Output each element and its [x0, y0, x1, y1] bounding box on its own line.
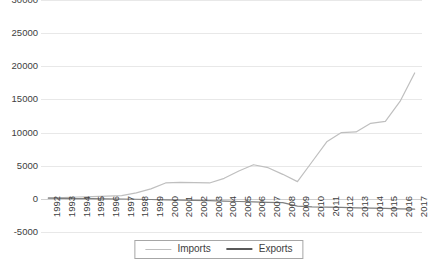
x-axis-tick-label: 2007 — [272, 196, 282, 217]
x-axis-tick-label: 1994 — [82, 196, 92, 217]
legend-line-swatch — [145, 249, 171, 250]
x-axis-tick-label: 2010 — [316, 196, 326, 217]
y-axis-tick-label: 20000 — [0, 62, 38, 72]
line-chart: 300002500020000150001000050000-5000 1992… — [0, 0, 438, 265]
x-axis-tick-labels: 1992199319941995199619971998199920002001… — [41, 196, 422, 236]
x-axis-tick-label: 2008 — [287, 196, 297, 217]
y-axis-tick-label: 15000 — [0, 95, 38, 105]
x-axis-tick-label: 2001 — [184, 196, 194, 217]
x-axis-tick-label: 2006 — [257, 196, 267, 217]
x-axis-tick-label: 2015 — [389, 196, 399, 217]
legend-label: Imports — [177, 243, 210, 255]
x-axis-tick-label: 2014 — [375, 196, 385, 217]
x-axis-tick-label: 2004 — [228, 196, 238, 217]
x-axis-tick-label: 1999 — [155, 196, 165, 217]
y-axis-tick-label: 0 — [0, 194, 38, 204]
x-axis-tick-label: 1998 — [140, 196, 150, 217]
legend-line-swatch — [227, 248, 253, 250]
x-axis-tick-label: 2005 — [243, 196, 253, 217]
legend-label: Exports — [259, 243, 293, 255]
y-axis-tick-label: -5000 — [0, 227, 38, 237]
x-axis-tick-label: 2016 — [404, 196, 414, 217]
x-axis-tick-label: 2012 — [345, 196, 355, 217]
x-axis-tick-label: 2002 — [199, 196, 209, 217]
y-axis-tick-label: 25000 — [0, 28, 38, 38]
x-axis-tick-label: 1992 — [52, 196, 62, 217]
x-axis-tick-label: 2003 — [214, 196, 224, 217]
legend-entry[interactable]: Imports — [145, 243, 210, 255]
x-axis-tick-label: 2000 — [170, 196, 180, 217]
x-axis-tick-label: 2017 — [419, 196, 429, 217]
x-axis-tick-label: 2013 — [360, 196, 370, 217]
y-axis-tick-label: 5000 — [0, 161, 38, 171]
x-axis-tick-label: 1995 — [96, 196, 106, 217]
y-axis-tick-label: 30000 — [0, 0, 38, 5]
x-axis-tick-label: 1996 — [111, 196, 121, 217]
y-axis-tick-label: 10000 — [0, 128, 38, 138]
legend-entry[interactable]: Exports — [227, 243, 293, 255]
x-axis-tick-label: 1993 — [67, 196, 77, 217]
series-line-imports — [48, 73, 414, 198]
y-axis-tick-labels: 300002500020000150001000050000-5000 — [0, 0, 38, 232]
x-axis-tick-label: 2009 — [301, 196, 311, 217]
x-axis-tick-label: 2011 — [331, 196, 341, 216]
x-axis-tick-label: 1997 — [126, 196, 136, 217]
chart-legend: ImportsExports — [134, 240, 303, 259]
